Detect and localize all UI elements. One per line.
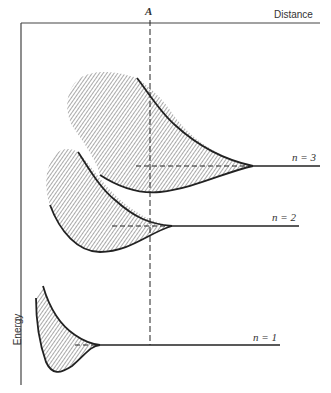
x-axis-label: Distance [274, 9, 313, 20]
y-axis-label: Energy [12, 313, 23, 347]
level-n3-label: n = 3 [292, 151, 316, 163]
level-n1-region [36, 286, 280, 373]
energy-level-diagram [0, 0, 331, 393]
level-n2-label: n = 2 [272, 211, 296, 223]
level-n3-region [67, 72, 320, 192]
level-n1-label: n = 1 [253, 331, 277, 343]
marker-a-label: A [145, 5, 152, 17]
